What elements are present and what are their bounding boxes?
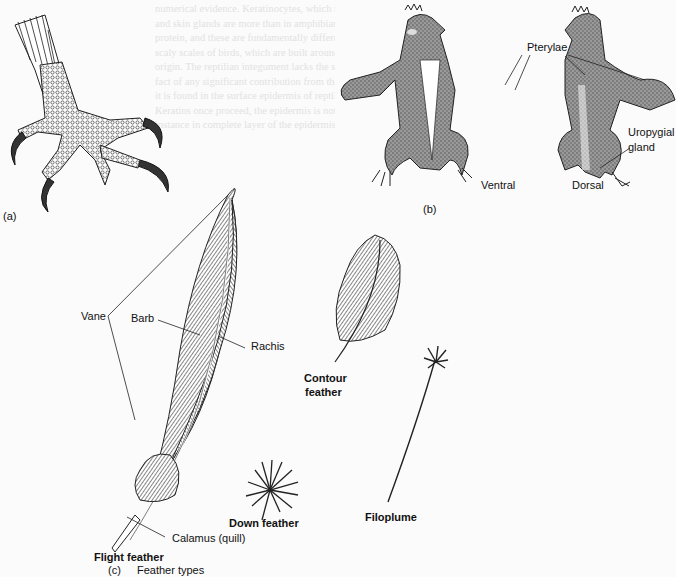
uropygial-gland-label-line2: gland bbox=[628, 141, 655, 153]
down-feather-illustration bbox=[246, 460, 298, 520]
contour-feather-illustration bbox=[335, 235, 400, 362]
flight-feather-illustration bbox=[112, 189, 237, 552]
down-feather-label: Down feather bbox=[229, 517, 299, 529]
feather-types-title: Feather types bbox=[137, 564, 204, 576]
pterylae-label: Pterylae bbox=[527, 41, 567, 53]
bird-foot-illustration bbox=[11, 15, 168, 212]
ventral-label: Ventral bbox=[481, 179, 515, 191]
rachis-label: Rachis bbox=[251, 340, 285, 352]
vane-label: Vane bbox=[81, 310, 106, 322]
panel-label-c: (c) bbox=[108, 564, 121, 576]
panel-c-caption: (c) Feather types bbox=[108, 564, 204, 576]
panel-label-a: (a) bbox=[3, 210, 16, 222]
panel-label-b: (b) bbox=[423, 203, 436, 215]
barb-label: Barb bbox=[131, 312, 154, 324]
chicken-ventral-illustration bbox=[341, 4, 472, 186]
chicken-dorsal-illustration bbox=[558, 6, 675, 186]
calamus-label: Calamus (quill) bbox=[172, 532, 245, 544]
filoplume-label: Filoplume bbox=[365, 511, 417, 523]
dorsal-label: Dorsal bbox=[572, 179, 604, 191]
filoplume-illustration bbox=[388, 346, 448, 502]
flight-feather-label: Flight feather bbox=[94, 551, 164, 563]
uropygial-gland-label-line1: Uropygial bbox=[628, 126, 674, 138]
contour-feather-label-line2: feather bbox=[305, 386, 342, 398]
contour-feather-label-line1: Contour bbox=[304, 372, 347, 384]
